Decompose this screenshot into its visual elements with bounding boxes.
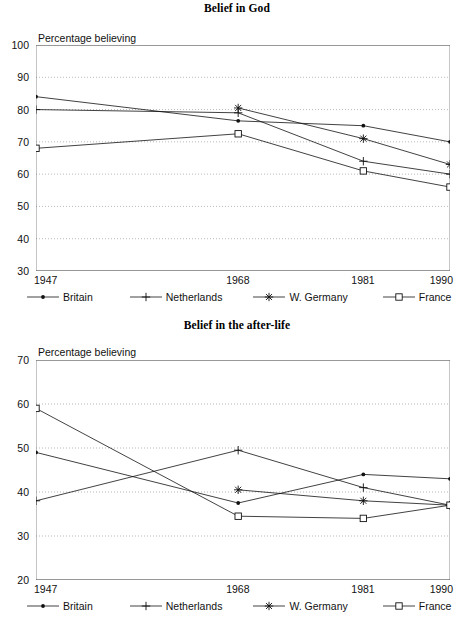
data-point-w-germany: [359, 497, 367, 505]
data-point-britain: [36, 95, 38, 99]
y-tick-label: 50: [17, 442, 29, 454]
y-tick-label: 20: [17, 574, 29, 586]
data-point-france: [447, 502, 450, 508]
data-point-netherlands: [36, 105, 40, 113]
y-tick-label: 70: [17, 354, 29, 366]
y-tick-label: 30: [17, 530, 29, 542]
dot-marker: [41, 604, 45, 608]
data-point-britain: [236, 501, 240, 505]
legend-label-britain: Britain: [60, 600, 93, 612]
chart-panel-belief-in-the-after-life: Belief in the after-life Percentage beli…: [0, 318, 474, 633]
legend-label-france: France: [416, 291, 452, 303]
y-tick-label: 100: [11, 39, 29, 51]
data-point-w-germany: [234, 486, 242, 494]
asterisk-marker: [265, 602, 273, 610]
data-point-france: [360, 515, 366, 521]
data-point-netherlands: [446, 170, 450, 178]
data-point-britain: [361, 473, 365, 477]
legend-item-wgermany[interactable]: W. Germany: [252, 291, 347, 303]
chart-panel-belief-in-god: Belief in God Percentage believing 30405…: [0, 0, 474, 318]
y-tick-label: 70: [17, 136, 29, 148]
legend-label-netherlands: Netherlands: [163, 291, 223, 303]
y-tick-label: 40: [17, 233, 29, 245]
x-tick-label: 1968: [226, 274, 249, 286]
plus-marker: [129, 600, 163, 612]
data-point-w-germany: [359, 134, 367, 142]
plot-svg-belief-in-the-after-life: [36, 360, 450, 580]
y-axis-caption-god: Percentage believing: [38, 32, 136, 44]
legend-label-wgermany: W. Germany: [286, 600, 347, 612]
data-point-britain: [448, 140, 450, 144]
x-tick-label: 1990: [430, 274, 453, 286]
data-point-france: [447, 184, 450, 190]
plus-marker: [142, 602, 150, 610]
data-point-britain: [361, 124, 365, 128]
data-point-france: [235, 131, 241, 137]
dot-marker: [26, 600, 60, 612]
legend-belief-in-the-after-life: BritainNetherlandsW. GermanyFrance: [26, 600, 456, 612]
y-tick-label: 80: [17, 104, 29, 116]
y-tick-label: 30: [17, 265, 29, 277]
legend-belief-in-god: BritainNetherlandsW. GermanyFrance: [26, 291, 456, 303]
data-point-britain: [448, 477, 450, 481]
square-marker: [382, 600, 416, 612]
data-point-netherlands: [234, 446, 242, 454]
figure-page: Belief in God Percentage believing 30405…: [0, 0, 474, 633]
legend-item-britain[interactable]: Britain: [26, 600, 93, 612]
data-point-netherlands: [36, 497, 40, 505]
asterisk-marker: [265, 293, 273, 301]
plot-area-belief-in-god: [36, 45, 450, 271]
legend-item-netherlands[interactable]: Netherlands: [129, 600, 223, 612]
x-tick-label: 1981: [351, 583, 374, 595]
asterisk-marker: [252, 600, 286, 612]
legend-item-britain[interactable]: Britain: [26, 291, 93, 303]
data-point-france: [36, 145, 39, 151]
plus-marker: [129, 291, 163, 303]
legend-label-france: France: [416, 600, 452, 612]
square-marker: [396, 294, 402, 300]
y-tick-label: 50: [17, 200, 29, 212]
plus-marker: [142, 293, 150, 301]
legend-label-wgermany: W. Germany: [286, 291, 347, 303]
dot-marker: [26, 291, 60, 303]
data-point-netherlands: [359, 483, 367, 491]
x-tick-label: 1990: [430, 583, 453, 595]
x-tick-label: 1981: [351, 274, 374, 286]
legend-item-france[interactable]: France: [382, 291, 452, 303]
series-line-w-germany: [238, 490, 450, 505]
y-tick-label: 60: [17, 168, 29, 180]
data-point-france: [235, 513, 241, 519]
y-tick-label: 40: [17, 486, 29, 498]
dot-marker: [41, 295, 45, 299]
x-tick-label: 1968: [226, 583, 249, 595]
y-axis-caption-after-life: Percentage believing: [38, 346, 136, 358]
legend-item-france[interactable]: France: [382, 600, 452, 612]
square-marker: [382, 291, 416, 303]
square-marker: [396, 603, 402, 609]
data-point-netherlands: [359, 157, 367, 165]
legend-item-wgermany[interactable]: W. Germany: [252, 600, 347, 612]
plot-area-belief-in-the-after-life: [36, 360, 450, 580]
data-point-britain: [236, 119, 240, 123]
legend-label-britain: Britain: [60, 291, 93, 303]
legend-item-netherlands[interactable]: Netherlands: [129, 291, 223, 303]
asterisk-marker: [252, 291, 286, 303]
legend-label-netherlands: Netherlands: [163, 600, 223, 612]
series-line-britain: [36, 452, 450, 503]
data-point-w-germany: [446, 160, 450, 168]
data-point-france: [36, 405, 39, 411]
data-point-france: [360, 168, 366, 174]
x-tick-label: 1947: [34, 274, 57, 286]
data-point-britain: [36, 451, 38, 455]
x-tick-label: 1947: [34, 583, 57, 595]
chart-title-belief-in-the-after-life: Belief in the after-life: [0, 319, 474, 331]
series-line-netherlands: [36, 450, 450, 505]
data-point-w-germany: [234, 104, 242, 112]
chart-title-belief-in-god: Belief in God: [0, 2, 474, 14]
plot-svg-belief-in-god: [36, 45, 450, 271]
y-tick-label: 90: [17, 71, 29, 83]
y-tick-label: 60: [17, 398, 29, 410]
